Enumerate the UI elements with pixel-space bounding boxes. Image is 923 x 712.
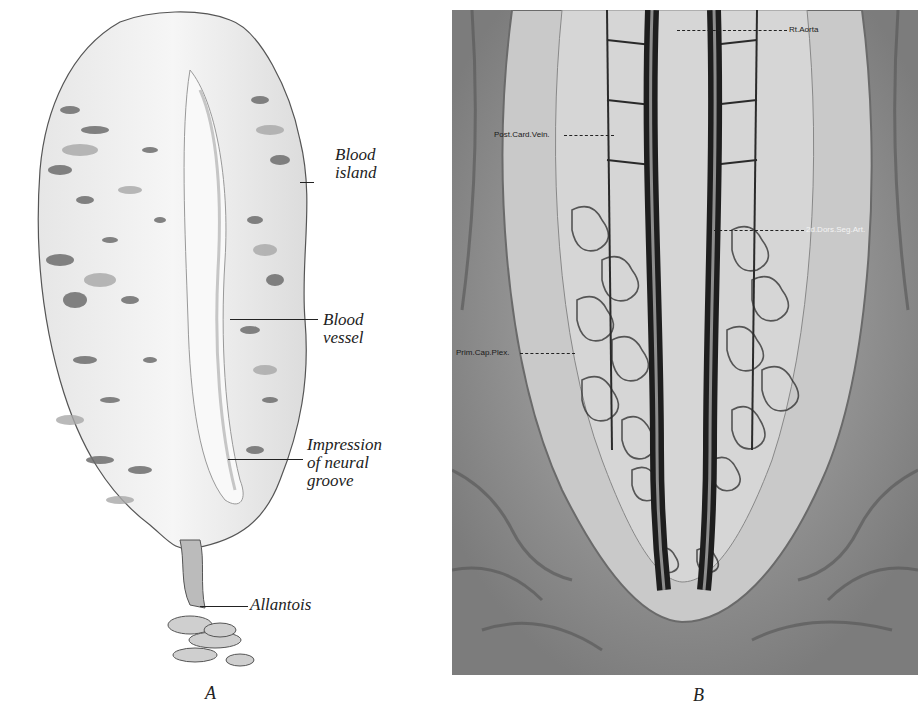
label-blood-island: Blood island — [335, 146, 377, 182]
leader-rt-aorta — [677, 30, 787, 31]
vascular-plexus-drawing-b — [452, 10, 918, 675]
panel-b-vascular-plate: Rt.Aorta Post.Card.Vein. 2d.Dors.Seg.Art… — [452, 10, 918, 675]
leader-dors-seg-art — [714, 230, 804, 231]
label-dors-seg-art: 2d.Dors.Seg.Art. — [806, 225, 865, 234]
label-neural-groove: Impression of neural groove — [307, 436, 382, 490]
label-post-card-vein: Post.Card.Vein. — [494, 130, 550, 139]
label-line: of neural — [307, 454, 382, 472]
label-line: Blood — [335, 146, 377, 164]
leader-allantois — [200, 606, 248, 607]
label-line: Impression — [307, 436, 382, 454]
leader-post-card-vein — [564, 135, 614, 136]
label-line: vessel — [323, 329, 364, 347]
label-line: Blood — [323, 311, 364, 329]
leader-blood-island — [300, 182, 314, 183]
label-prim-cap-plex: Prim.Cap.Plex. — [456, 348, 509, 357]
leader-blood-vessel — [230, 319, 318, 320]
label-blood-vessel: Blood vessel — [323, 311, 364, 347]
panel-letter-b: B — [693, 685, 704, 706]
leader-prim-cap-plex — [520, 353, 575, 354]
label-line: island — [335, 164, 377, 182]
label-line: Allantois — [250, 596, 311, 614]
panel-letter-a: A — [205, 683, 216, 704]
label-rt-aorta: Rt.Aorta — [789, 25, 818, 34]
label-line: groove — [307, 472, 382, 490]
leader-neural-groove — [228, 459, 303, 460]
label-allantois: Allantois — [250, 596, 311, 614]
panel-a-embryo-illustration: Blood island Blood vessel Impression of … — [0, 0, 440, 712]
